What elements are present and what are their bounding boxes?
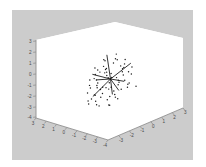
scatter-point [115,58,116,59]
scatter-point [122,68,123,69]
scatter-point [128,71,129,72]
z-tick-label: -2 [27,94,32,99]
scatter-point [113,90,114,91]
scatter-point [120,65,121,66]
scatter-point [89,85,90,86]
scatter-point [123,74,124,75]
x-tick-label: -1 [72,133,77,138]
scatter-point [98,105,99,106]
scatter-point [118,81,119,82]
scatter-point [127,83,128,84]
scatter-point [127,87,128,88]
scatter-point [122,71,123,72]
scatter-point [116,53,117,54]
x-tick-label: -4 [103,143,108,148]
scatter-point [113,62,114,63]
scatter-point [128,82,129,83]
scatter-point [135,86,136,87]
y-tick-label: -2 [130,133,135,138]
x-tick-label: 1 [52,127,55,132]
scatter-point [99,71,100,72]
scatter-point [120,89,121,90]
scatter-point [117,98,118,99]
y-tick-label: 2 [173,115,176,120]
scatter-point [106,71,107,72]
scatter-point [88,103,89,104]
scatter-point [111,77,112,78]
scatter-point [117,84,118,85]
scatter-point [89,79,90,80]
scatter-point [90,87,91,88]
scatter-point [124,59,125,60]
scatter-point [103,66,104,67]
scatter-point [102,87,103,88]
scatter-point [87,92,88,93]
scatter-point [110,73,111,74]
figure-container: 3 2 1 0 -1 -2 -3 -4 3 2 1 0 -1 -2 [0,0,206,167]
scatter-point [109,82,110,83]
x-tick-label: 2 [42,124,45,129]
panel-silhouette [36,22,183,140]
z-tick-label: -4 [27,115,32,120]
scatter-point [93,78,94,79]
scatter-point [115,96,116,97]
y-tick-label: 1 [163,119,166,124]
scatter-point [131,73,132,74]
scatter-point [100,97,101,98]
y-tick-label: -1 [140,128,145,133]
z-tick-label: -3 [27,105,32,110]
scatter-point [109,96,110,97]
z-tick-label: 2 [29,50,32,55]
scatter-point [117,59,118,60]
y-tick-label: 0 [152,124,155,129]
z-tick-label: 1 [29,61,32,66]
scatter-point [124,80,125,81]
scatter-point [131,66,132,67]
scatter-point [100,89,101,90]
scatter-point [109,104,110,105]
x-tick-label: 3 [32,121,35,126]
z-tick-label: -1 [27,83,32,88]
scatter-point [124,63,125,64]
z-axis-ticklabels: 3 2 1 0 -1 -2 -3 -4 [27,39,32,120]
scatter-point [123,67,124,68]
scatter-point [107,99,108,100]
scatter-point [91,98,92,99]
z-tick-label: 0 [29,72,32,77]
scatter-point [95,101,96,102]
scatter-point [105,87,106,88]
scatter-point [97,82,98,83]
scatter-point [87,100,88,101]
y-tick-label: 3 [184,110,187,115]
scatter-point [110,87,111,88]
scatter-point [106,68,107,69]
scatter-point [96,79,97,80]
scatter-point [106,75,107,76]
x-tick-label: -3 [93,139,98,144]
scatter-point [104,60,105,61]
scatter-point [118,80,119,81]
x-tick-label: -2 [82,136,87,141]
scatter-point [94,67,95,68]
z-tick-label: 3 [29,39,32,44]
axes-3d[interactable]: 3 2 1 0 -1 -2 -3 -4 3 2 1 0 -1 -2 [0,0,206,167]
scatter-point [95,74,96,75]
scatter-point [95,95,96,96]
scatter-point [107,77,108,78]
x-tick-label: 0 [63,130,66,135]
scatter-point [96,104,97,105]
scatter-point [96,85,97,86]
scatter-point [96,87,97,88]
scatter-point [102,93,103,94]
scatter-point [97,69,98,70]
scatter-point [114,94,115,95]
scatter-point [116,77,117,78]
scatter-point [104,72,105,73]
scatter-point [103,59,104,60]
y-tick-label: -3 [119,138,124,143]
scatter-point [108,88,109,89]
